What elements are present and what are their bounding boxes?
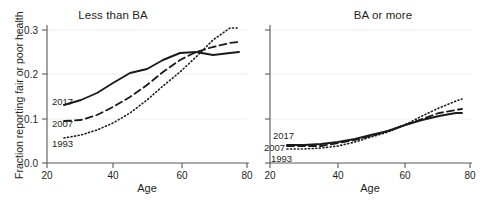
series-line-1993-right bbox=[287, 99, 462, 149]
panel-less-than-ba: Less than BA Fraction reporting fair or … bbox=[0, 0, 250, 206]
series-line-2007-left bbox=[64, 42, 239, 121]
series-line-2007-right bbox=[287, 109, 462, 146]
series-group-left bbox=[64, 28, 239, 138]
gridlines-right bbox=[270, 30, 472, 119]
figure-root: Less than BA Fraction reporting fair or … bbox=[0, 0, 490, 206]
y-ticks-right bbox=[265, 30, 270, 163]
plot-area-less-than-ba bbox=[0, 0, 250, 206]
gridlines-left bbox=[47, 30, 247, 119]
series-group-right bbox=[287, 99, 462, 149]
series-line-1993-left bbox=[64, 28, 239, 138]
series-line-2017-right bbox=[287, 113, 462, 145]
y-ticks-left bbox=[42, 30, 47, 163]
panel-ba-or-more: BA or more 20 40 60 80 Age 2017 2007 199… bbox=[240, 0, 490, 206]
plot-area-ba-or-more bbox=[240, 0, 490, 206]
x-ticks-left bbox=[47, 163, 247, 168]
x-ticks-right bbox=[270, 163, 470, 168]
